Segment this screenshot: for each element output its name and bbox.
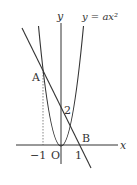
x-axis-label: x	[120, 139, 127, 152]
y-axis-label: y	[56, 10, 64, 23]
x-tick-1: 1	[75, 149, 82, 162]
origin-label: O	[51, 149, 60, 162]
graph: y x y = ax² A B 2 −1 O 1	[0, 0, 137, 185]
x-tick-neg1: −1	[30, 149, 46, 162]
point-A-label: A	[31, 71, 41, 84]
line-AB	[22, 28, 91, 168]
y-intercept-label: 2	[64, 104, 71, 117]
curve-label: y = ax²	[81, 11, 118, 22]
point-B-label: B	[82, 132, 90, 145]
